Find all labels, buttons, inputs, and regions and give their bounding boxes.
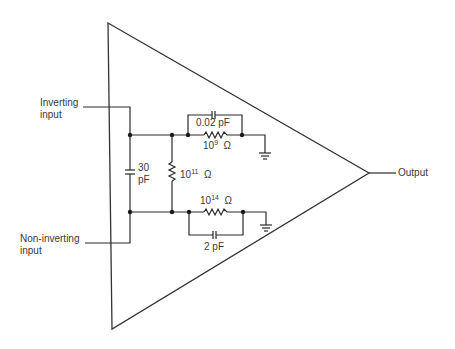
cap-30pf-value-line2: pF bbox=[138, 174, 150, 186]
ground-top-wire bbox=[242, 135, 265, 153]
cap-002pf-value: 0.02 pF bbox=[196, 117, 230, 128]
resistor-1e9-base: 10 bbox=[203, 140, 214, 151]
resistor-1e9-symbol bbox=[204, 132, 242, 138]
circuit-schematic bbox=[0, 0, 455, 349]
cap-30pf-value: 30 pF bbox=[138, 162, 150, 186]
inverting-input-wire bbox=[83, 107, 130, 135]
junction-dot bbox=[128, 133, 132, 137]
resistor-1e11-unit: Ω bbox=[204, 169, 211, 180]
cap-30pf-value-line1: 30 bbox=[138, 162, 150, 174]
ground-bottom-wire bbox=[243, 212, 266, 225]
resistor-1e9-value: 109 Ω bbox=[203, 139, 231, 151]
resistor-1e9-unit: Ω bbox=[224, 140, 231, 151]
resistor-1e9-exp: 9 bbox=[214, 139, 218, 146]
resistor-1e14-unit: Ω bbox=[224, 195, 231, 206]
inverting-input-label: Inverting input bbox=[40, 97, 78, 121]
resistor-1e14-base: 10 bbox=[200, 195, 211, 206]
inverting-label-line1: Inverting bbox=[40, 97, 78, 109]
junction-dot bbox=[241, 210, 245, 214]
resistor-1e11-value: 1011 Ω bbox=[180, 168, 211, 180]
resistor-1e14-value: 1014 Ω bbox=[200, 194, 232, 206]
cap-2pf-wire-right bbox=[216, 212, 243, 235]
junction-dot bbox=[186, 133, 190, 137]
junction-dot bbox=[170, 133, 174, 137]
resistor-1e11-symbol bbox=[169, 162, 175, 181]
junction-dot bbox=[170, 210, 174, 214]
resistor-1e14-exp: 14 bbox=[211, 194, 219, 201]
inverting-label-line2: input bbox=[40, 109, 78, 121]
junction-dot bbox=[240, 133, 244, 137]
resistor-1e11-base: 10 bbox=[180, 169, 191, 180]
noninverting-input-wire bbox=[85, 212, 130, 243]
junction-dot bbox=[187, 210, 191, 214]
cap-2pf-value: 2 pF bbox=[204, 241, 224, 252]
noninverting-label-line1: Non-inverting bbox=[20, 233, 79, 245]
noninverting-input-label: Non-inverting input bbox=[20, 233, 79, 257]
resistor-1e14-symbol bbox=[204, 209, 243, 215]
junction-dot bbox=[128, 210, 132, 214]
noninverting-label-line2: input bbox=[20, 245, 79, 257]
output-label: Output bbox=[398, 167, 428, 179]
resistor-1e11-exp: 11 bbox=[191, 168, 198, 175]
